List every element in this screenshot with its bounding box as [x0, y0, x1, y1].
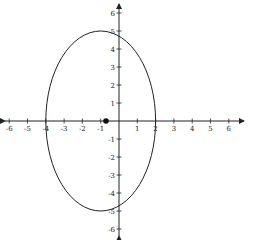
x-tick-label: -3 — [61, 125, 68, 133]
y-tick-label: 2 — [111, 82, 115, 90]
x-tick-label: 5 — [208, 125, 212, 133]
y-tick-label: 3 — [111, 64, 115, 72]
coordinate-plane: -6-5-4-3-2-1123456 654321-1-2-3-4-5-6 — [0, 0, 256, 240]
x-tick-label: 6 — [227, 125, 232, 133]
y-tick-label: 1 — [111, 100, 115, 108]
x-tick-label: -2 — [79, 125, 86, 133]
y-tick-label: -2 — [108, 154, 115, 162]
x-tick-label: 4 — [190, 125, 195, 133]
x-tick-label: 1 — [135, 125, 139, 133]
center-point — [103, 118, 109, 124]
y-tick-label: -3 — [108, 172, 115, 180]
y-tick-label: 6 — [111, 10, 116, 18]
x-tick-label: 3 — [172, 125, 176, 133]
x-tick-label: -1 — [97, 125, 104, 133]
y-tick-label: -4 — [108, 190, 115, 198]
y-tick-label: 4 — [111, 46, 116, 54]
x-tick-label: -6 — [6, 125, 13, 133]
y-tick-label: -1 — [108, 136, 115, 144]
y-tick-label: -6 — [108, 226, 115, 234]
x-tick-label: -5 — [24, 125, 31, 133]
